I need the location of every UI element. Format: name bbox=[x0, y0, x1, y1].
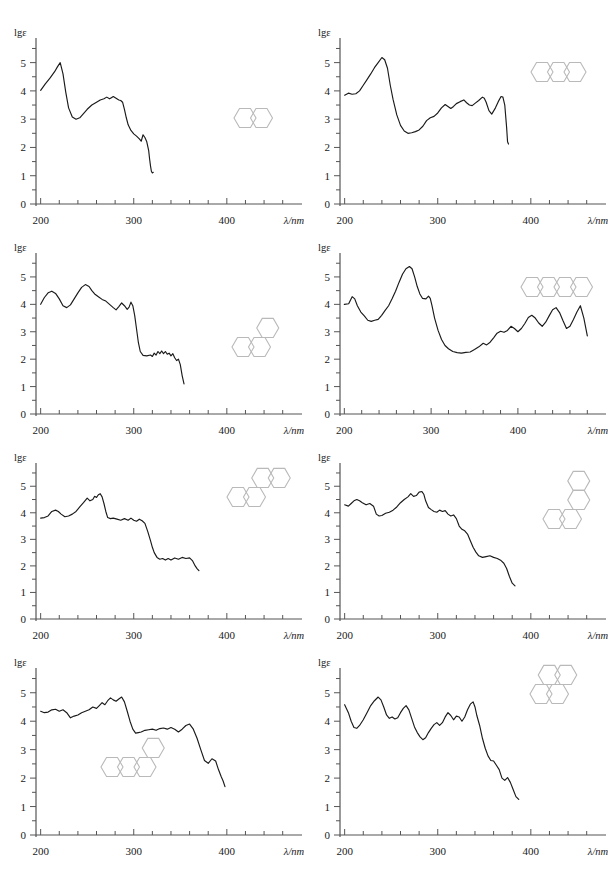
y-tick-label: 3 bbox=[325, 326, 331, 338]
y-tick-label: 1 bbox=[21, 381, 27, 393]
benzene-ring bbox=[234, 108, 256, 127]
y-tick-label: 1 bbox=[325, 381, 331, 393]
x-tick-label: 200 bbox=[32, 424, 49, 436]
spectrum-panel-tetracene: 200300400012345lgελ/nm bbox=[304, 237, 608, 447]
benzene-ring bbox=[538, 665, 560, 684]
y-tick-label: 3 bbox=[325, 533, 331, 545]
y-tick-label: 1 bbox=[325, 170, 331, 182]
spectrum-curve bbox=[345, 492, 515, 586]
benzene-ring bbox=[249, 337, 271, 356]
y-tick-label: 3 bbox=[21, 744, 27, 756]
x-tick-label: 400 bbox=[523, 629, 540, 641]
y-tick-label: 0 bbox=[21, 408, 27, 420]
y-tick-label: 0 bbox=[21, 829, 27, 841]
spectrum-curve bbox=[41, 494, 199, 571]
molecular-structure-benz[a]anthracene bbox=[101, 738, 164, 776]
y-tick-label: 4 bbox=[325, 507, 331, 519]
y-tick-label: 3 bbox=[325, 744, 331, 756]
benzene-ring bbox=[251, 108, 273, 127]
x-axis-label: λ/nm bbox=[587, 215, 608, 226]
spectrum-curve bbox=[345, 697, 519, 799]
x-tick-label: 200 bbox=[336, 845, 353, 857]
spectrum-plot: 200300400012345lgελ/nm bbox=[0, 652, 304, 868]
y-tick-label: 0 bbox=[21, 198, 27, 210]
benzene-ring bbox=[548, 62, 570, 81]
y-tick-label: 5 bbox=[21, 271, 27, 283]
y-tick-label: 2 bbox=[21, 772, 27, 784]
y-tick-label: 3 bbox=[325, 113, 331, 125]
spectrum-curve bbox=[41, 63, 154, 173]
x-tick-label: 400 bbox=[523, 845, 540, 857]
spectrum-panel-phenanthrene: 200300400012345lgελ/nm bbox=[0, 237, 304, 447]
spectrum-curve bbox=[41, 697, 225, 787]
spectrum-plot: 200300400012345lgελ/nm bbox=[304, 237, 608, 447]
y-tick-label: 0 bbox=[325, 829, 331, 841]
spectrum-panel-anthracene: 200300400012345lgελ/nm bbox=[304, 22, 608, 237]
benzene-ring bbox=[571, 277, 593, 296]
y-tick-label: 2 bbox=[325, 353, 331, 365]
y-tick-label: 1 bbox=[325, 586, 331, 598]
x-tick-label: 300 bbox=[429, 845, 446, 857]
benzene-ring bbox=[134, 757, 156, 776]
x-tick-label: 200 bbox=[32, 629, 49, 641]
benzene-ring bbox=[554, 277, 576, 296]
y-tick-label: 0 bbox=[325, 408, 331, 420]
x-tick-label: 400 bbox=[219, 845, 236, 857]
x-axis-label: λ/nm bbox=[283, 846, 304, 857]
benzene-ring bbox=[118, 757, 140, 776]
y-axis-label: lgε bbox=[318, 242, 331, 253]
spectrum-panel-benzo[c]phenanthrene: 200300400012345lgελ/nm bbox=[304, 447, 608, 652]
x-tick-label: 200 bbox=[336, 424, 353, 436]
y-tick-label: 1 bbox=[21, 586, 27, 598]
x-axis-label: λ/nm bbox=[283, 425, 304, 436]
benzene-ring bbox=[268, 468, 290, 487]
x-tick-label: 300 bbox=[429, 214, 446, 226]
x-tick-label: 200 bbox=[32, 214, 49, 226]
molecular-structure-phenanthrene bbox=[232, 318, 279, 356]
y-tick-label: 5 bbox=[325, 57, 331, 69]
y-axis-label: lgε bbox=[318, 657, 331, 668]
y-tick-label: 5 bbox=[21, 480, 27, 492]
x-axis-label: λ/nm bbox=[587, 846, 608, 857]
spectrum-panel-chrysene: 200300400012345lgελ/nm bbox=[0, 447, 304, 652]
spectrum-curve bbox=[344, 267, 587, 354]
x-tick-label: 200 bbox=[336, 629, 353, 641]
y-tick-label: 5 bbox=[21, 57, 27, 69]
y-tick-label: 4 bbox=[21, 507, 27, 519]
x-tick-label: 300 bbox=[125, 424, 142, 436]
benzene-ring bbox=[521, 277, 543, 296]
x-tick-label: 400 bbox=[219, 214, 236, 226]
benzene-ring bbox=[568, 490, 590, 509]
y-tick-label: 5 bbox=[325, 271, 331, 283]
spectrum-plot: 200300400012345lgελ/nm bbox=[0, 237, 304, 447]
y-axis-label: lgε bbox=[318, 27, 331, 38]
y-tick-label: 5 bbox=[325, 687, 331, 699]
y-tick-label: 2 bbox=[325, 560, 331, 572]
x-tick-label: 400 bbox=[219, 424, 236, 436]
y-axis-label: lgε bbox=[14, 657, 27, 668]
molecular-structure-chrysene bbox=[227, 468, 290, 506]
benzene-ring bbox=[547, 684, 569, 703]
y-tick-label: 0 bbox=[325, 198, 331, 210]
spectrum-plot: 200300400012345lgελ/nm bbox=[0, 447, 304, 652]
x-axis-label: λ/nm bbox=[587, 630, 608, 641]
spectrum-panel-benz[a]anthracene: 200300400012345lgελ/nm bbox=[0, 652, 304, 868]
y-tick-label: 1 bbox=[21, 801, 27, 813]
molecular-structure-tetracene bbox=[521, 277, 593, 296]
y-tick-label: 2 bbox=[21, 141, 27, 153]
x-tick-label: 400 bbox=[510, 424, 527, 436]
spectrum-curve bbox=[345, 58, 509, 145]
x-tick-label: 300 bbox=[423, 424, 440, 436]
x-axis-label: λ/nm bbox=[587, 425, 608, 436]
benzene-ring bbox=[252, 468, 274, 487]
y-tick-label: 2 bbox=[21, 353, 27, 365]
y-axis-label: lgε bbox=[14, 27, 27, 38]
spectrum-plot: 200300400012345lgελ/nm bbox=[304, 652, 608, 868]
spectrum-curve bbox=[41, 285, 184, 384]
y-tick-label: 4 bbox=[325, 715, 331, 727]
y-tick-label: 4 bbox=[325, 85, 331, 97]
benzene-ring bbox=[257, 318, 279, 337]
y-axis-label: lgε bbox=[14, 242, 27, 253]
spectra-grid: 200300400012345lgελ/nm200300400012345lgε… bbox=[0, 0, 608, 871]
x-axis-label: λ/nm bbox=[283, 215, 304, 226]
